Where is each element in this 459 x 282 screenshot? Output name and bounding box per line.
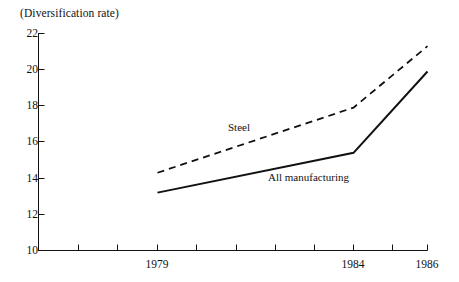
plot-area [0,0,459,282]
series-line-steel [158,46,428,173]
x-axis-ticks [79,245,428,251]
diversification-rate-chart: (Diversification rate) 22 20 18 16 14 12… [0,0,459,282]
series-line-all-manufacturing [158,71,428,192]
y-axis-ticks [39,34,45,215]
